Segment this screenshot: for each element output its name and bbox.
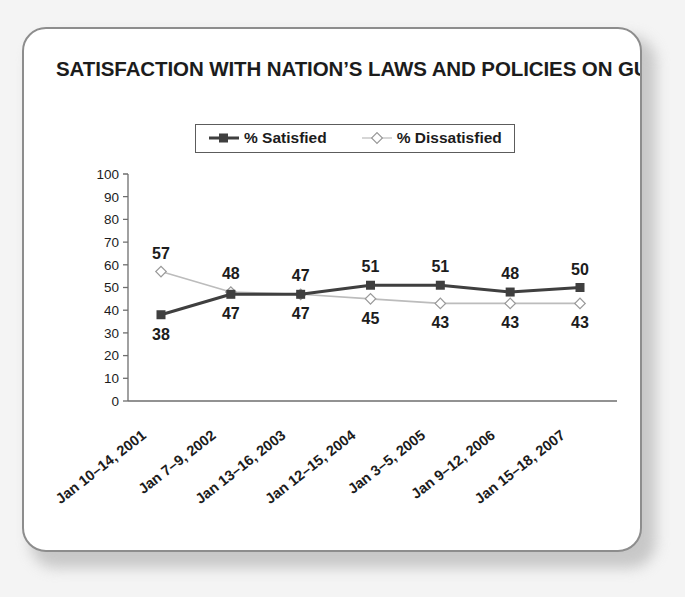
data-point-marker [576,283,585,292]
y-axis-tick-label: 100 [96,167,119,182]
data-point-label: 50 [571,261,589,278]
data-point-label: 38 [152,326,170,343]
data-point-marker [575,298,585,308]
data-point-label: 47 [292,267,310,284]
data-point-marker [226,290,235,299]
line-chart-plot: 0102030405060708090100Jan 10–14, 2001Jan… [24,29,642,552]
data-point-label: 48 [501,265,519,282]
data-point-marker [296,290,305,299]
data-point-label: 57 [152,245,170,262]
data-point-label: 51 [362,258,380,275]
data-point-label: 51 [431,258,449,275]
data-point-marker [365,294,375,304]
y-axis-tick-label: 20 [104,348,119,363]
data-point-label: 47 [292,305,310,322]
x-axis-tick-label: Jan 10–14, 2001 [53,427,149,507]
data-point-label: 43 [571,314,589,331]
y-axis-tick-label: 80 [104,212,119,227]
data-point-marker [505,298,515,308]
data-point-label: 48 [222,265,240,282]
y-axis-tick-label: 50 [104,280,119,295]
data-point-label: 47 [222,305,240,322]
data-point-marker [156,266,166,276]
y-axis-tick-label: 90 [104,190,119,205]
data-point-marker [506,288,515,297]
y-axis-tick-label: 60 [104,258,119,273]
y-axis-tick-label: 40 [104,303,119,318]
screenshot-root: SATISFACTION WITH NATION’S LAWS AND POLI… [0,0,685,597]
data-point-marker [366,281,375,290]
chart-card: SATISFACTION WITH NATION’S LAWS AND POLI… [22,27,642,552]
data-point-marker [435,298,445,308]
data-point-label: 45 [362,310,380,327]
data-point-marker [157,310,166,319]
data-point-label: 43 [501,314,519,331]
y-axis-tick-label: 70 [104,235,119,250]
data-point-marker [436,281,445,290]
y-axis-tick-label: 30 [104,326,119,341]
y-axis-tick-label: 10 [104,371,119,386]
data-point-label: 43 [431,314,449,331]
y-axis-tick-label: 0 [111,394,119,409]
